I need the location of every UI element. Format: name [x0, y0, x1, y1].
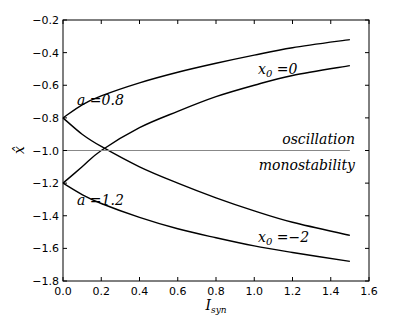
x-tick-label: 1.2: [284, 285, 302, 298]
x-tick-label: 0.4: [131, 285, 149, 298]
y-tick-label: −0.6: [32, 79, 59, 92]
annotation-x0-0: x0 =0: [258, 61, 297, 79]
y-tick-label: −1.2: [32, 177, 59, 190]
y-tick-label: −1.8: [32, 275, 59, 288]
y-tick-label: −0.4: [32, 47, 59, 60]
y-tick-label: −0.2: [32, 14, 59, 27]
annotation-a08: a =0.8: [77, 92, 124, 108]
label-monostability: monostability: [259, 157, 356, 173]
x-tick-label: 1.4: [322, 285, 340, 298]
y-tick-label: −1.0: [32, 145, 59, 158]
line-chart: 0.00.20.40.60.81.01.21.41.6−0.2−0.4−0.6−…: [0, 0, 395, 324]
x-axis-label: Isyn: [204, 297, 226, 315]
x-tick-label: 0.2: [93, 285, 111, 298]
x-tick-label: 1.0: [246, 285, 264, 298]
y-tick-label: −0.8: [32, 112, 59, 125]
x-tick-label: 1.6: [360, 285, 378, 298]
annotation-a12: a =1.2: [77, 192, 124, 208]
x-tick-label: 0.6: [169, 285, 187, 298]
annotation-x0-m2: x0 =−2: [258, 229, 309, 247]
y-axis-label: x̂: [11, 146, 27, 154]
y-tick-label: −1.4: [32, 210, 59, 223]
label-oscillation: oscillation: [282, 131, 355, 147]
y-tick-label: −1.6: [32, 242, 59, 255]
